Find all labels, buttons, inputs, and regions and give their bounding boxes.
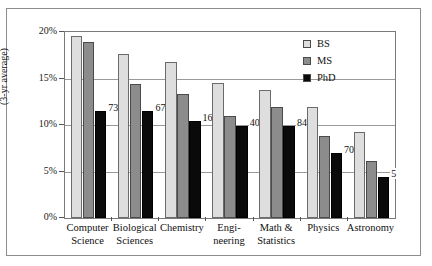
y-tick-label: 10% <box>15 118 57 129</box>
bar-phd <box>378 177 390 218</box>
legend-item-ms: MS <box>303 53 373 68</box>
bar-bs <box>212 83 224 218</box>
bar-bs <box>165 62 177 218</box>
bar-ms <box>366 161 378 218</box>
bar-ms <box>130 84 142 218</box>
y-tick-label: 20% <box>15 25 57 36</box>
bar-group: 84 <box>254 32 301 218</box>
bar-bs <box>307 107 319 218</box>
legend-item-phd: PhD <box>303 70 373 85</box>
y-tick-label: 15% <box>15 72 57 83</box>
legend-swatch-ms <box>303 57 311 65</box>
bar-phd <box>331 153 343 218</box>
bar-bs <box>259 90 271 218</box>
x-tick-mark <box>253 217 254 221</box>
legend-label-phd: PhD <box>317 72 336 83</box>
x-axis-label: Astronomy <box>330 222 410 235</box>
bar-value-label: 5 <box>390 168 397 179</box>
x-axis-label-line: Statistics <box>236 235 316 248</box>
legend-item-bs: BS <box>303 36 373 51</box>
bar-phd <box>283 126 295 218</box>
x-axis-label-line: Sciences <box>95 235 175 248</box>
bar-ms <box>319 136 331 218</box>
bar-phd <box>236 126 248 218</box>
x-tick-mark <box>158 217 159 221</box>
legend-swatch-bs <box>303 40 311 48</box>
x-tick-mark <box>347 217 348 221</box>
x-axis-label-line: Astronomy <box>330 222 410 235</box>
bar-ms <box>271 107 283 218</box>
figure-frame: (3-yr average) 0%5%10%15%20% 73671168402… <box>6 8 421 256</box>
bar-group: 73 <box>65 32 112 218</box>
bar-bs <box>71 36 83 218</box>
x-tick-mark <box>111 217 112 221</box>
bar-bs <box>354 132 366 218</box>
bar-ms <box>224 116 236 218</box>
chart-screenshot: (3-yr average) 0%5%10%15%20% 73671168402… <box>0 0 432 266</box>
x-tick-mark <box>300 217 301 221</box>
legend: BS MS PhD <box>303 36 373 87</box>
x-tick-mark <box>205 217 206 221</box>
legend-label-ms: MS <box>317 55 332 66</box>
bar-bs <box>118 54 130 218</box>
bar-group: 671 <box>112 32 159 218</box>
legend-label-bs: BS <box>317 38 330 49</box>
bar-ms <box>83 42 95 218</box>
bar-ms <box>177 94 189 218</box>
bar-group: 168 <box>159 32 206 218</box>
y-axis-title: (3-yr average) <box>0 48 9 105</box>
bar-group: 402 <box>206 32 253 218</box>
y-tick-label: 0% <box>15 211 57 222</box>
bar-phd <box>95 111 107 218</box>
bar-phd <box>189 121 201 218</box>
legend-swatch-phd <box>303 74 311 82</box>
y-tick-label: 5% <box>15 165 57 176</box>
bar-phd <box>142 111 154 218</box>
